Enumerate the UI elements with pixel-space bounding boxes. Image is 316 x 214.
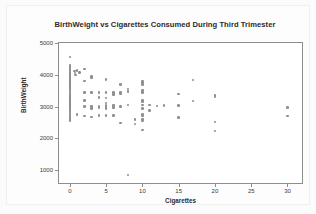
x-tick-label: 5 bbox=[104, 188, 107, 194]
data-point bbox=[148, 104, 151, 107]
x-tick-mark bbox=[70, 183, 71, 187]
x-tick-mark bbox=[287, 183, 288, 187]
data-point bbox=[83, 105, 86, 108]
data-point bbox=[90, 107, 93, 110]
data-point bbox=[69, 119, 72, 122]
data-point bbox=[134, 123, 137, 126]
data-point bbox=[127, 90, 130, 93]
data-point bbox=[69, 56, 72, 59]
data-point bbox=[214, 130, 217, 133]
y-tick-label: 4000 bbox=[40, 72, 53, 78]
data-point bbox=[119, 93, 122, 96]
data-point bbox=[286, 115, 289, 118]
data-point bbox=[163, 104, 166, 107]
x-tick-mark bbox=[179, 183, 180, 187]
x-tick-label: 20 bbox=[212, 188, 219, 194]
data-point bbox=[74, 74, 77, 77]
data-point bbox=[127, 104, 130, 107]
data-point bbox=[98, 91, 101, 94]
data-point bbox=[286, 106, 289, 109]
data-point bbox=[83, 99, 86, 102]
data-point bbox=[76, 113, 79, 116]
y-tick-label: 5000 bbox=[40, 40, 53, 46]
y-tick-label: 3000 bbox=[40, 104, 53, 110]
data-point bbox=[141, 120, 144, 123]
data-point bbox=[214, 96, 217, 99]
data-point bbox=[105, 97, 108, 100]
x-tick-mark bbox=[106, 183, 107, 187]
data-point bbox=[192, 100, 195, 103]
data-point bbox=[98, 106, 101, 109]
data-point bbox=[83, 68, 86, 71]
data-point bbox=[119, 105, 122, 108]
x-tick-label: 0 bbox=[68, 188, 71, 194]
x-tick-mark bbox=[215, 183, 216, 187]
data-point bbox=[177, 93, 180, 96]
y-axis-label: BirthWeight bbox=[20, 77, 27, 113]
data-point bbox=[119, 122, 122, 125]
data-point bbox=[141, 101, 144, 104]
scatter-points-layer bbox=[59, 43, 302, 183]
data-point bbox=[83, 115, 86, 118]
data-point bbox=[134, 118, 137, 121]
data-point bbox=[141, 91, 144, 94]
data-point bbox=[105, 91, 108, 94]
y-tick-mark bbox=[55, 170, 59, 171]
x-tick-label: 10 bbox=[139, 188, 146, 194]
data-point bbox=[119, 83, 122, 86]
x-axis-label: Cigarettes bbox=[58, 197, 303, 204]
y-tick-mark bbox=[55, 107, 59, 108]
data-point bbox=[141, 129, 144, 132]
x-tick-label: 25 bbox=[248, 188, 255, 194]
data-point bbox=[112, 114, 115, 117]
y-tick-label: 1000 bbox=[40, 167, 53, 173]
chart-title: BirthWeight vs Cigarettes Consumed Durin… bbox=[7, 20, 316, 29]
data-point bbox=[192, 79, 195, 82]
x-tick-mark bbox=[142, 183, 143, 187]
data-point bbox=[90, 91, 93, 94]
data-point bbox=[148, 109, 151, 112]
data-point bbox=[112, 107, 115, 110]
data-point bbox=[127, 174, 130, 177]
chart-figure: BirthWeight vs Cigarettes Consumed Durin… bbox=[0, 0, 316, 214]
data-point bbox=[105, 78, 108, 81]
data-point bbox=[105, 114, 108, 117]
figure-panel: BirthWeight vs Cigarettes Consumed Durin… bbox=[6, 5, 310, 205]
data-point bbox=[112, 93, 115, 96]
data-point bbox=[156, 105, 159, 108]
data-point bbox=[141, 104, 144, 107]
data-point bbox=[141, 83, 144, 86]
x-tick-mark bbox=[251, 183, 252, 187]
data-point bbox=[83, 91, 86, 94]
x-tick-label: 30 bbox=[284, 188, 291, 194]
data-point bbox=[78, 71, 81, 74]
data-point bbox=[177, 104, 180, 107]
data-point bbox=[141, 107, 144, 110]
x-tick-label: 15 bbox=[175, 188, 182, 194]
y-tick-label: 2000 bbox=[40, 135, 53, 141]
y-tick-mark bbox=[55, 75, 59, 76]
data-point bbox=[177, 116, 180, 119]
plot-area: 10002000300040005000 051015202530 bbox=[58, 42, 303, 184]
data-point bbox=[98, 114, 101, 117]
data-point bbox=[90, 116, 93, 119]
data-point bbox=[90, 77, 93, 80]
data-point bbox=[83, 80, 86, 83]
y-tick-mark bbox=[55, 43, 59, 44]
data-point bbox=[214, 121, 217, 124]
data-point bbox=[98, 96, 101, 99]
data-point bbox=[105, 107, 108, 110]
y-tick-mark bbox=[55, 138, 59, 139]
